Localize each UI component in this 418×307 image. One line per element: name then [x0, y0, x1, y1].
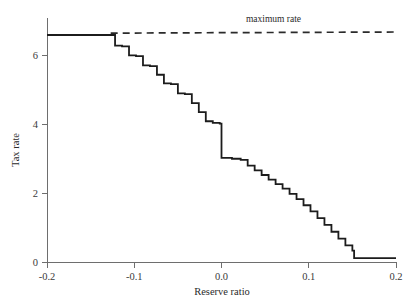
y-tick-label-6: 6	[33, 50, 38, 61]
y-tick-label-4: 4	[33, 119, 39, 130]
y-axis-title: Tax rate	[10, 133, 21, 167]
chart-figure: 0 2 4 6 -0.2 -0.1 0.0 0.1 0.2 Reserve ra…	[0, 0, 418, 307]
y-axis-ticks	[42, 55, 47, 262]
x-tick-label-neg02: -0.2	[39, 271, 56, 282]
x-axis-title: Reserve ratio	[194, 286, 250, 297]
x-axis-tick-labels: -0.2 -0.1 0.0 0.1 0.2	[39, 271, 403, 282]
x-tick-label-02: 0.2	[389, 271, 402, 282]
chart-canvas: 0 2 4 6 -0.2 -0.1 0.0 0.1 0.2 Reserve ra…	[0, 0, 418, 307]
maximum-rate-line	[111, 32, 396, 33]
x-tick-label-00: 0.0	[215, 271, 228, 282]
y-tick-label-0: 0	[33, 257, 38, 268]
y-axis-tick-labels: 0 2 4 6	[33, 50, 39, 268]
x-tick-label-01: 0.1	[302, 271, 315, 282]
x-tick-label-neg01: -0.1	[126, 271, 143, 282]
x-axis-ticks	[47, 262, 396, 268]
y-tick-label-2: 2	[33, 188, 38, 199]
maximum-rate-label: maximum rate	[246, 14, 301, 24]
tax-rate-step-curve	[47, 35, 396, 258]
